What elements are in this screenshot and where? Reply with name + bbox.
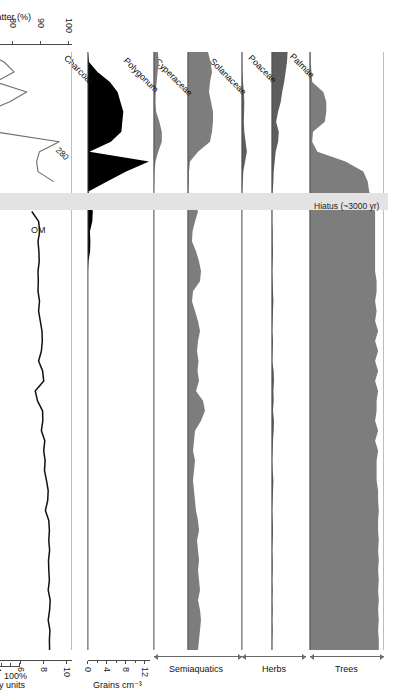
hiatus-label: Hiatus (~3000 yr) [314,201,379,211]
om-line-lower [32,212,50,651]
om-axis-title: Organic matter (%) [0,12,31,22]
ms-axis-line [0,660,72,661]
charcoal-tick-label: 0 [83,667,92,672]
om-tick [40,41,41,44]
charcoal-tick-label: 12 [140,667,149,677]
group-label-herbs: Herbs [262,664,286,674]
charcoal-minor-tick [135,661,136,663]
om-tick-label: 100 [64,18,73,33]
charcoal-tick-label: 4 [102,667,111,672]
percent-scalebar-line [0,666,20,667]
group-label-trees: Trees [335,664,358,674]
percent-scalebar-tick [10,663,11,666]
percent-scalebar-tick [1,663,2,666]
ms-tick-label: 4 [0,667,2,672]
group-bracket-arrow [380,654,384,660]
charcoal-tick [87,661,88,664]
ms-line-upper [0,52,59,182]
om-tick [68,41,69,44]
group-label-semiaquatics: Semiaquatics [169,664,223,674]
ms-axis-title: Susceptibility units [0,680,25,690]
group-bracket-arrow [154,654,158,660]
charcoal-minor-tick [97,661,98,663]
percent-scalebar-tick [19,663,20,667]
ms-tick [20,661,21,664]
ms-tick [43,661,44,664]
om-tick [12,41,13,44]
charcoal-tick-label: 8 [121,667,130,672]
charcoal-tick [144,661,145,664]
charcoal-tick [106,661,107,664]
charcoal-axis-title: Grains cm⁻³ [93,680,142,690]
percent-scalebar-max-label: 100% [4,672,27,681]
ms-tick-label: 8 [39,667,48,672]
ms-tick [66,661,67,664]
group-bracket-herbs [242,656,306,657]
group-bracket-arrow [310,654,314,660]
charcoal-tick [125,661,126,664]
ms-tick-label: 10 [62,667,71,677]
group-bracket-trees [310,656,384,657]
om-tick-label: 90 [36,18,45,28]
om-series-label: OM [31,226,46,235]
group-bracket-arrow [302,654,306,660]
group-bracket-semiaquatics [154,656,242,657]
group-bracket-arrow [242,654,246,660]
om-axis-line [0,44,72,45]
charcoal-minor-tick [116,661,117,663]
